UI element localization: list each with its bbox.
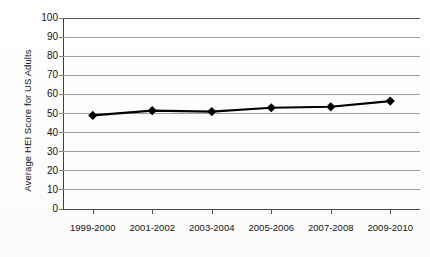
x-axis-tick-mark bbox=[271, 209, 272, 214]
series-line bbox=[93, 101, 391, 115]
y-axis-title-text: Average HEI Score for US Adults bbox=[22, 49, 33, 191]
data-series-layer bbox=[63, 18, 420, 209]
y-axis-tick-label: 30 bbox=[34, 147, 58, 157]
x-axis-tick-label: 2005-2006 bbox=[249, 222, 294, 234]
y-axis-tick-label: 10 bbox=[34, 185, 58, 195]
y-axis-tick-label: 40 bbox=[34, 128, 58, 138]
x-axis-tick-labels: 1999-20002001-20022003-20042005-20062007… bbox=[63, 222, 420, 238]
x-axis-tick-label: 2009-2010 bbox=[368, 222, 413, 234]
x-axis-tick-label: 2003-2004 bbox=[189, 222, 234, 234]
line-chart-figure: Average HEI Score for US Adults 01020304… bbox=[0, 0, 430, 257]
y-axis-tick-label: 0 bbox=[34, 204, 58, 214]
x-axis-tick-mark bbox=[331, 209, 332, 214]
plot-area bbox=[63, 18, 420, 209]
data-point-marker bbox=[88, 111, 97, 120]
data-point-marker bbox=[148, 106, 157, 115]
x-axis-tick-marks bbox=[63, 209, 420, 215]
y-axis-tick-label: 60 bbox=[34, 89, 58, 99]
y-axis-tick-labels: 0102030405060708090100 bbox=[32, 0, 58, 257]
x-axis-tick-label: 2007-2008 bbox=[308, 222, 353, 234]
x-axis-tick-label: 2001-2002 bbox=[130, 222, 175, 234]
y-axis-tick-label: 90 bbox=[34, 32, 58, 42]
y-axis-tick-label: 70 bbox=[34, 70, 58, 80]
x-axis-tick-label: 1999-2000 bbox=[70, 222, 115, 234]
x-axis-tick-mark bbox=[152, 209, 153, 214]
data-point-marker bbox=[386, 96, 395, 105]
y-axis-tick-label: 80 bbox=[34, 51, 58, 61]
x-axis-tick-mark bbox=[212, 209, 213, 214]
series-markers bbox=[88, 96, 395, 120]
x-axis-tick-mark bbox=[390, 209, 391, 214]
y-axis-tick-label: 20 bbox=[34, 166, 58, 176]
data-point-marker bbox=[326, 102, 335, 111]
y-axis-tick-label: 50 bbox=[34, 109, 58, 119]
data-point-marker bbox=[267, 103, 276, 112]
x-axis-tick-mark bbox=[93, 209, 94, 214]
data-point-marker bbox=[207, 107, 216, 116]
y-axis-tick-label: 100 bbox=[34, 13, 58, 23]
